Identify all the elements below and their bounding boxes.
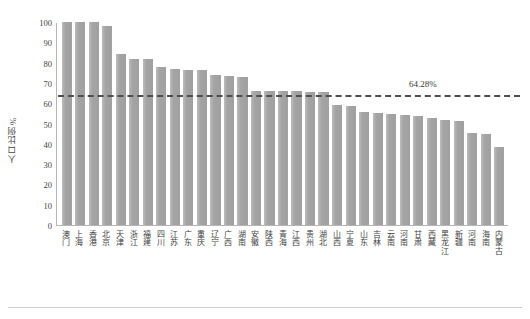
bar [89, 22, 99, 225]
y-axis-tick-0: 0 [26, 222, 52, 231]
x-axis-tick-label: 安徽 [250, 231, 260, 293]
y-axis-tick-40: 40 [26, 141, 52, 150]
bar [251, 91, 261, 225]
x-axis-tick-label: 贵州 [305, 231, 315, 293]
bottom-divider [8, 307, 522, 308]
x-axis-tick-label: 江苏 [169, 231, 179, 293]
plot-area: 64.28% [56, 23, 508, 226]
bar [454, 121, 464, 225]
bar [359, 112, 369, 225]
x-axis-tick-label: 北京 [101, 231, 111, 293]
bar [400, 115, 410, 225]
bar [291, 91, 301, 225]
bar [373, 113, 383, 225]
bar [237, 77, 247, 225]
x-axis-tick-label: 辽宁 [210, 231, 220, 293]
bar [62, 22, 72, 225]
y-axis-tick-labels: 0102030405060708090100 [26, 23, 52, 226]
y-axis-tick-20: 20 [26, 181, 52, 190]
y-axis-tick-90: 90 [26, 39, 52, 48]
bar [346, 106, 356, 225]
bar [278, 91, 288, 225]
bar-chart: 人口比例% 0102030405060708090100 64.28% 澳门上海… [0, 0, 530, 319]
bar [440, 120, 450, 225]
bar [210, 75, 220, 225]
bar [143, 59, 153, 225]
x-axis-tick-label: 广东 [183, 231, 193, 293]
x-axis-tick-label: 江西 [291, 231, 301, 293]
bar [427, 118, 437, 225]
x-axis-tick-label: 云南 [386, 231, 396, 293]
x-axis-tick-label: 河南 [467, 231, 477, 293]
x-axis-tick-label: 海南 [481, 231, 491, 293]
bar [305, 92, 315, 225]
bar [318, 92, 328, 225]
x-axis-tick-label: 甘肃 [413, 231, 423, 293]
bar [386, 114, 396, 225]
x-axis-tick-label: 天津 [115, 231, 125, 293]
y-axis-tick-100: 100 [26, 19, 52, 28]
national-average-line [58, 95, 520, 97]
y-axis-tick-70: 70 [26, 80, 52, 89]
bar [481, 134, 491, 225]
bar [332, 105, 342, 225]
bar [156, 67, 166, 225]
bar [183, 70, 193, 225]
x-axis-tick-label: 西藏 [426, 231, 436, 293]
x-axis-tick-label: 福建 [142, 231, 152, 293]
bar [224, 76, 234, 225]
x-axis-tick-label: 湖北 [318, 231, 328, 293]
bar [197, 70, 207, 225]
x-axis-tick-label: 山东 [359, 231, 369, 293]
y-axis-tick-60: 60 [26, 100, 52, 109]
bar [170, 69, 180, 225]
y-axis-tick-50: 50 [26, 120, 52, 129]
bar [413, 116, 423, 225]
bar [264, 91, 274, 225]
y-axis-tick-10: 10 [26, 201, 52, 210]
national-average-label: 64.28% [409, 80, 437, 89]
x-axis-tick-label: 湖南 [237, 231, 247, 293]
x-axis-tick-label: 山西 [332, 231, 342, 293]
x-axis-tick-labels: 澳门上海香港北京天津浙江福建四川江苏广东重庆辽宁广西湖南安徽陕西青海江西贵州湖北… [56, 231, 508, 293]
x-axis-tick-label: 重庆 [196, 231, 206, 293]
bar [75, 22, 85, 225]
x-axis-tick-label: 香港 [88, 231, 98, 293]
x-axis-tick-label: 黑龙江 [440, 231, 450, 293]
x-axis-tick-label: 新疆 [454, 231, 464, 293]
x-axis-tick-label: 澳门 [61, 231, 71, 293]
y-axis-tick-30: 30 [26, 161, 52, 170]
x-axis-tick-label: 宁夏 [345, 231, 355, 293]
x-axis-tick-label: 上海 [74, 231, 84, 293]
bar [129, 59, 139, 225]
x-axis-tick-label: 河南 [399, 231, 409, 293]
y-axis-tick-80: 80 [26, 59, 52, 68]
x-axis-tick-label: 青海 [277, 231, 287, 293]
x-axis-tick-label: 吉林 [372, 231, 382, 293]
x-axis-tick-label: 四川 [156, 231, 166, 293]
y-axis-title: 人口比例% [2, 95, 24, 185]
x-axis-tick-label: 陕西 [264, 231, 274, 293]
bar [102, 26, 112, 225]
x-axis-tick-label: 浙江 [128, 231, 138, 293]
bar [467, 133, 477, 225]
x-axis-tick-label: 广西 [223, 231, 233, 293]
bar [116, 54, 126, 225]
bar [494, 147, 504, 225]
bars-layer [57, 23, 508, 225]
x-axis-tick-label: 内蒙古 [494, 231, 504, 293]
